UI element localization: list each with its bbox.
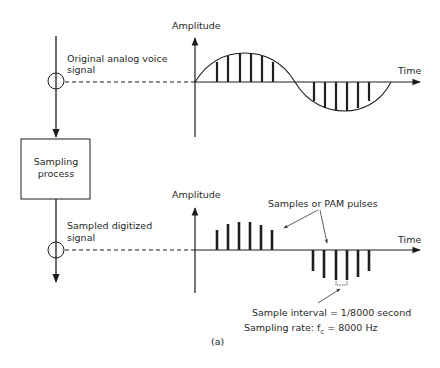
pam-sampling-diagram: Original analog voice signal Sampling pr… <box>0 0 440 368</box>
output-label-line2: signal <box>67 232 95 243</box>
top-y-axis-label: Amplitude <box>172 20 221 31</box>
pam-pulses-callout: Samples or PAM pulses <box>268 198 378 209</box>
bottom-y-axis-label: Amplitude <box>172 189 221 200</box>
pam-pulses <box>217 222 369 280</box>
callout-arrow-negative <box>320 210 327 243</box>
input-label-line2: signal <box>67 64 95 75</box>
left-signal-flow: Original analog voice signal Sampling pr… <box>21 36 195 282</box>
output-label-line1: Sampled digitized <box>67 220 152 231</box>
pam-pulse-plot: Amplitude Time Samples or PAM pulses Sam… <box>172 189 421 336</box>
sample-interval-bracket <box>336 281 347 285</box>
sample-interval-label: Sample interval = 1/8000 second <box>252 307 411 318</box>
input-label-line1: Original analog voice <box>67 53 168 64</box>
sampling-rate-label: Sampling rate: fc = 8000 Hz <box>244 322 378 336</box>
interval-callout-arrow <box>318 289 340 303</box>
bottom-x-axis-label: Time <box>397 234 421 245</box>
analog-signal-plot: Amplitude Time <box>172 20 421 137</box>
callout-arrow-positive <box>284 210 318 228</box>
process-box-label-line2: process <box>38 168 75 179</box>
figure-caption: (a) <box>211 336 224 347</box>
top-x-axis-label: Time <box>397 65 421 76</box>
process-box-label-line1: Sampling <box>34 156 78 167</box>
